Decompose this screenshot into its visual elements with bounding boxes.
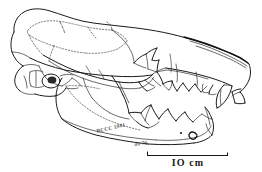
zygomatic-arch [43,55,166,89]
scale-bar-label: IO cm [147,157,229,168]
mental-foramina [180,132,197,139]
cranial-suture-lines [27,21,127,61]
lower-tooth-row [137,105,211,128]
occipital-region [11,32,39,94]
auditory-bulla-region [24,66,81,96]
mandible [56,78,214,145]
skull-illustration [0,0,262,172]
rostrum [166,64,232,86]
premaxilla-canine-region [202,64,250,108]
scale-bar [147,152,228,156]
lower-canine-region [205,107,212,135]
skull-figure: IO cm BCCC 1981 do 79 [0,0,262,172]
temporal-line [30,30,152,77]
